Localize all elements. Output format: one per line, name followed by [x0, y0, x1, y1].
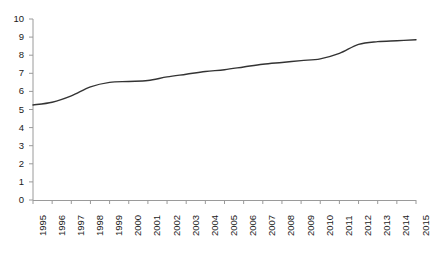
x-axis-tick-label: 2011 — [344, 216, 354, 236]
x-axis-tick-label: 2014 — [401, 215, 411, 236]
y-axis-tick-label: 6 — [4, 86, 24, 96]
y-axis-tick-label: 8 — [4, 50, 24, 60]
x-axis-tick-label: 2002 — [172, 215, 182, 236]
x-axis-tick-label: 2007 — [267, 215, 277, 236]
x-axis-tick-label: 2010 — [325, 215, 335, 236]
y-axis-tick-label: 7 — [4, 68, 24, 78]
x-axis-tick-label: 1997 — [76, 215, 86, 236]
x-axis-tick-label: 2003 — [191, 215, 201, 236]
y-axis-tick-label: 3 — [4, 141, 24, 151]
chart-axes — [33, 19, 416, 201]
x-axis-tick-label: 1998 — [95, 215, 105, 236]
x-axis-tick-label: 2005 — [229, 215, 239, 236]
x-axis-tick-label: 2006 — [248, 215, 258, 236]
y-axis-tick-label: 2 — [4, 159, 24, 169]
x-axis-tick-label: 2000 — [133, 215, 143, 236]
x-axis-ticks — [33, 200, 416, 204]
y-axis-tick-label: 4 — [4, 123, 24, 133]
x-axis-tick-label: 2015 — [421, 215, 431, 236]
y-axis-tick-label: 1 — [4, 177, 24, 187]
y-axis-tick-label: 10 — [4, 14, 24, 24]
y-axis-tick-label: 5 — [4, 105, 24, 115]
x-axis-tick-label: 1996 — [57, 215, 67, 236]
x-axis-tick-label: 2008 — [286, 215, 296, 236]
data-series-line — [33, 40, 416, 105]
x-axis-tick-label: 2001 — [152, 215, 162, 236]
x-axis-tick-label: 1995 — [38, 215, 48, 236]
x-axis-tick-label: 2004 — [210, 215, 220, 236]
x-axis-tick-label: 2013 — [382, 215, 392, 236]
x-axis-tick-label: 2009 — [306, 215, 316, 236]
y-axis-tick-label: 0 — [4, 195, 24, 205]
y-axis-tick-label: 9 — [4, 32, 24, 42]
y-axis-ticks — [29, 19, 33, 200]
x-axis-tick-label: 2012 — [363, 215, 373, 236]
x-axis-tick-label: 1999 — [114, 215, 124, 236]
